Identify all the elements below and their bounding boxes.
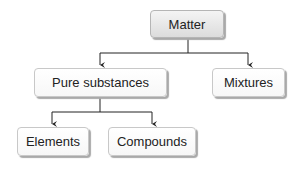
connector-matter bbox=[100, 38, 248, 65]
node-compounds-label: Compounds bbox=[117, 134, 187, 149]
node-compounds: Compounds bbox=[108, 127, 196, 156]
connector-pure-substances bbox=[52, 97, 152, 124]
node-elements: Elements bbox=[17, 127, 89, 156]
node-pure-substances-label: Pure substances bbox=[52, 75, 149, 90]
node-pure-substances: Pure substances bbox=[34, 68, 167, 97]
matter-classification-diagram: Matter Pure substances Mixtures Elements… bbox=[0, 0, 303, 170]
node-elements-label: Elements bbox=[26, 134, 80, 149]
node-matter: Matter bbox=[150, 10, 224, 38]
node-mixtures: Mixtures bbox=[212, 68, 285, 97]
node-mixtures-label: Mixtures bbox=[224, 75, 273, 90]
node-matter-label: Matter bbox=[169, 17, 206, 32]
